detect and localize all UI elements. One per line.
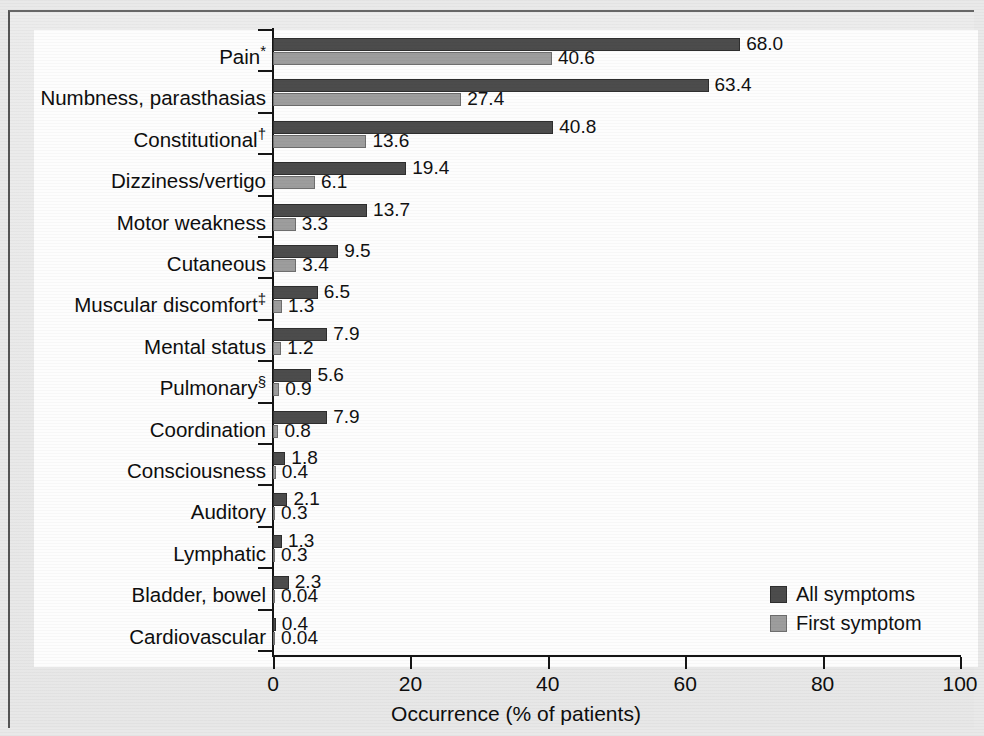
bar-value-label: 68.0 [746,37,783,50]
bar-first-symptom [273,632,275,645]
x-axis-tick-label: 60 [674,672,697,696]
x-axis-tick [548,657,550,669]
y-axis-tick [258,153,273,155]
bar-all-symptoms [273,618,276,631]
x-axis-tick-label: 40 [536,672,559,696]
y-axis-tick [258,609,273,611]
bar-value-label: 0.9 [285,382,311,395]
bar-first-symptom [273,93,461,106]
bar-value-label: 0.4 [282,465,308,478]
category-label: Cutaneous [167,254,266,274]
bar-first-symptom [273,549,275,562]
bar-first-symptom [273,590,275,603]
footnote-marker: ‡ [258,291,266,308]
legend-swatch [770,586,787,603]
bar-first-symptom [273,259,296,272]
bar-value-label: 0.04 [281,589,318,602]
y-axis-tick [258,112,273,114]
y-axis-tick [258,360,273,362]
x-axis-tick-label: 100 [942,672,977,696]
bar-value-label: 1.2 [287,341,313,354]
y-axis-tick [258,277,273,279]
bar-first-symptom [273,176,315,189]
x-axis-tick [685,657,687,669]
y-axis-tick [258,567,273,569]
bar-value-label: 6.5 [324,285,350,298]
category-label: Lymphatic [173,544,266,564]
bar-first-symptom [273,425,278,438]
category-label: Consciousness [127,461,266,481]
bar-value-label: 6.1 [321,175,347,188]
bar-first-symptom [273,383,279,396]
bar-value-label: 13.6 [372,134,409,147]
x-axis-tick [273,657,275,669]
y-axis-tick [258,195,273,197]
x-axis-tick-label: 80 [811,672,834,696]
x-axis-tick-label: 20 [399,672,422,696]
bar-value-label: 63.4 [715,78,752,91]
x-axis-tick [410,657,412,669]
y-axis-tick [258,526,273,528]
legend-label: All symptoms [796,583,915,606]
x-axis-tick-label: 0 [267,672,279,696]
legend-label: First symptom [796,612,922,635]
category-label: Cardiovascular [129,627,266,647]
footnote-marker: § [258,373,266,390]
bar-value-label: 5.6 [317,368,343,381]
category-label: Dizziness/vertigo [111,171,266,191]
legend-swatch [770,615,787,632]
x-axis-title-text: Occurrence (% of patients) [391,702,641,726]
footnote-marker: † [258,125,266,142]
bar-first-symptom [273,135,366,148]
category-label: Muscular discomfort‡ [74,295,266,315]
bar-value-label: 27.4 [467,92,504,105]
bar-all-symptoms [273,38,740,51]
y-axis-tick [258,236,273,238]
bar-value-label: 0.3 [281,548,307,561]
bar-first-symptom [273,507,275,520]
bar-first-symptom [273,466,276,479]
y-axis-tick [258,443,273,445]
bar-value-label: 3.4 [302,258,328,271]
y-axis-tick [258,29,273,31]
bar-value-label: 7.9 [333,410,359,423]
bar-first-symptom [273,218,296,231]
y-axis-tick [258,319,273,321]
bar-value-label: 40.8 [559,120,596,133]
bar-first-symptom [273,52,552,65]
x-axis-tick [960,657,962,669]
horizontal-bar-chart: Pain*Numbness, parasthasiasConstitutiona… [0,0,984,736]
bar-first-symptom [273,342,281,355]
y-axis-tick [258,650,273,652]
y-axis-tick [258,70,273,72]
bar-value-label: 1.3 [288,299,314,312]
category-label: Bladder, bowel [132,585,266,605]
legend-item: First symptom [770,612,922,635]
bar-all-symptoms [273,121,553,134]
bar-value-label: 40.6 [558,51,595,64]
category-label: Pulmonary§ [160,378,266,398]
bar-value-label: 0.8 [284,424,310,437]
category-label: Coordination [150,420,266,440]
chart-legend: All symptomsFirst symptom [770,583,922,641]
x-axis-line [272,655,961,657]
category-label: Auditory [191,502,266,522]
bar-value-label: 0.3 [281,506,307,519]
bar-value-label: 0.04 [281,631,318,644]
category-label: Mental status [144,337,266,357]
category-label: Motor weakness [117,213,266,233]
bar-value-label: 19.4 [412,161,449,174]
bar-value-label: 7.9 [333,327,359,340]
footnote-marker: * [260,42,266,59]
category-label: Numbness, parasthasias [40,88,266,108]
bar-first-symptom [273,300,282,313]
x-axis-title: Occurrence (% of patients) [0,702,984,726]
bar-value-label: 9.5 [344,244,370,257]
legend-item: All symptoms [770,583,922,606]
y-axis-tick [258,402,273,404]
category-label: Constitutional† [133,130,266,150]
y-axis-tick [258,484,273,486]
bar-value-label: 3.3 [302,217,328,230]
x-axis-tick [823,657,825,669]
bar-value-label: 13.7 [373,203,410,216]
